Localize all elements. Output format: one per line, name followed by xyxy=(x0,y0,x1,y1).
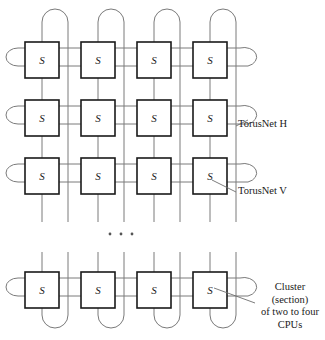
torus-network-diagram: S S S S S S xyxy=(0,0,325,340)
wrap-loop-left-row0 xyxy=(6,48,18,66)
switch-node[interactable]: S xyxy=(193,158,227,194)
wrap-loop-right-row2 xyxy=(240,164,257,182)
switch-node[interactable]: S xyxy=(81,42,115,78)
ellipsis-dots xyxy=(109,233,134,236)
annotation-cluster-line-1: Cluster xyxy=(258,281,322,294)
switch-node-label: S xyxy=(151,112,157,124)
switch-node[interactable]: S xyxy=(193,272,227,308)
switch-node-label: S xyxy=(95,54,101,66)
wrap-loop-left-row2 xyxy=(6,164,18,182)
switch-node[interactable]: S xyxy=(137,42,171,78)
switch-node-label: S xyxy=(39,284,45,296)
wrap-loop-left-row3 xyxy=(6,278,18,296)
switch-node-label: S xyxy=(39,54,45,66)
switch-node-label: S xyxy=(151,54,157,66)
switch-node[interactable]: S xyxy=(25,272,59,308)
switch-node[interactable]: S xyxy=(25,158,59,194)
wrap-loop-top-col3 xyxy=(210,9,236,30)
wrap-loop-left-row1 xyxy=(6,106,18,124)
annotation-cluster-line-3: of two to four xyxy=(258,306,322,319)
switch-nodes: S S S S S S xyxy=(25,42,227,308)
switch-node[interactable]: S xyxy=(81,158,115,194)
wrap-loop-bottom-col3 xyxy=(210,308,236,328)
switch-node[interactable]: S xyxy=(137,100,171,136)
wrap-loop-top-col1 xyxy=(98,9,124,30)
switch-node-label: S xyxy=(39,170,45,182)
switch-node-label: S xyxy=(151,284,157,296)
switch-node[interactable]: S xyxy=(25,42,59,78)
wrap-loop-bottom-col2 xyxy=(154,308,180,328)
switch-node-label: S xyxy=(95,170,101,182)
annotation-cluster-line-4: CPUs xyxy=(258,319,322,332)
switch-node-label: S xyxy=(95,284,101,296)
switch-node-label: S xyxy=(95,112,101,124)
wrap-loop-right-row3 xyxy=(240,278,257,296)
wrap-loop-top-col0 xyxy=(42,9,68,30)
annotation-torusnet-h: TorusNet H xyxy=(238,118,287,131)
switch-node-label: S xyxy=(207,54,213,66)
wrap-loop-top-col2 xyxy=(154,9,180,30)
annotation-cluster-line-2: (section) xyxy=(258,294,322,307)
wrap-loop-bottom-col0 xyxy=(42,308,68,328)
switch-node[interactable]: S xyxy=(137,272,171,308)
switch-node[interactable]: S xyxy=(25,100,59,136)
wrap-loop-right-row0 xyxy=(240,48,257,66)
annotation-torusnet-v: TorusNet V xyxy=(238,185,287,198)
switch-node[interactable]: S xyxy=(81,272,115,308)
switch-node-label: S xyxy=(207,112,213,124)
switch-node[interactable]: S xyxy=(137,158,171,194)
annotation-cluster: Cluster (section) of two to four CPUs xyxy=(258,281,322,331)
switch-node-label: S xyxy=(207,284,213,296)
switch-node[interactable]: S xyxy=(193,42,227,78)
switch-node[interactable]: S xyxy=(193,100,227,136)
switch-node-label: S xyxy=(151,170,157,182)
vertical-wraparound-top xyxy=(42,9,236,30)
wrap-loop-bottom-col1 xyxy=(98,308,124,328)
switch-node-label: S xyxy=(39,112,45,124)
switch-node[interactable]: S xyxy=(81,100,115,136)
